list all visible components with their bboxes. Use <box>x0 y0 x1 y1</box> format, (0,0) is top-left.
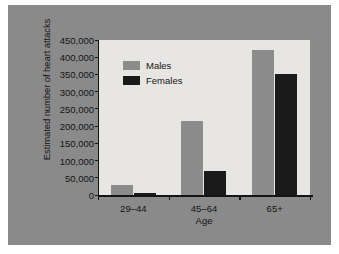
x-axis-title: Age <box>98 215 310 226</box>
chart-legend: Males Females <box>123 59 182 89</box>
y-axis-tick-label: 200,000 <box>30 121 94 132</box>
legend-item-males: Males <box>123 59 182 72</box>
y-axis-tick-labels: 050,000100,000150,000200,000250,000300,0… <box>30 40 94 195</box>
x-axis-tick-label: 45–64 <box>191 203 217 214</box>
x-axis-tick-mark <box>98 195 99 200</box>
y-axis-tick-label: 100,000 <box>30 155 94 166</box>
x-axis-tick-label: 65+ <box>267 203 283 214</box>
legend-swatch-females-icon <box>123 76 140 85</box>
legend-label-males: Males <box>146 60 171 71</box>
y-axis-tick-label: 50,000 <box>30 172 94 183</box>
y-axis-tick-label: 350,000 <box>30 69 94 80</box>
y-axis-line <box>98 40 99 196</box>
legend-swatch-males-icon <box>123 61 140 70</box>
y-axis-tick-label: 450,000 <box>30 35 94 46</box>
bar-group <box>239 40 310 195</box>
bar-males-29–44 <box>111 185 133 195</box>
x-axis-tick-label: 29–44 <box>120 203 146 214</box>
bar-males-65+ <box>252 50 274 195</box>
figure-container: Estimated number of heart attacks 050,00… <box>8 5 331 245</box>
bar-males-45–64 <box>181 121 203 195</box>
y-axis-tick-label: 250,000 <box>30 103 94 114</box>
bar-females-65+ <box>275 74 297 195</box>
bar-females-45–64 <box>204 171 226 195</box>
x-axis-tick-mark <box>239 195 240 200</box>
legend-item-females: Females <box>123 74 182 87</box>
legend-label-females: Females <box>146 75 182 86</box>
x-axis-tick-mark <box>310 195 311 200</box>
y-axis-tick-label: 400,000 <box>30 52 94 63</box>
y-axis-tick-label: 300,000 <box>30 86 94 97</box>
x-axis-line <box>98 195 313 197</box>
y-axis-tick-label: 0 <box>30 190 94 201</box>
y-axis-tick-label: 150,000 <box>30 138 94 149</box>
x-axis-tick-mark <box>169 195 170 200</box>
chart-frame: Estimated number of heart attacks 050,00… <box>18 14 321 221</box>
